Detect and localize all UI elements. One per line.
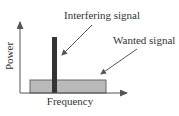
interfering-pointer-arrow: [62, 25, 92, 55]
interfering-signal-label: Interfering signal: [64, 9, 140, 21]
wanted-signal-band: [30, 80, 106, 93]
wanted-signal-label: Wanted signal: [113, 34, 175, 46]
y-axis-label: Power: [3, 42, 15, 70]
spectrum-diagram: Interfering signal Wanted signal Frequen…: [0, 0, 179, 116]
interfering-signal-bar: [52, 37, 57, 93]
x-axis-label: Frequency: [47, 95, 94, 107]
wanted-pointer-arrow: [101, 49, 137, 74]
